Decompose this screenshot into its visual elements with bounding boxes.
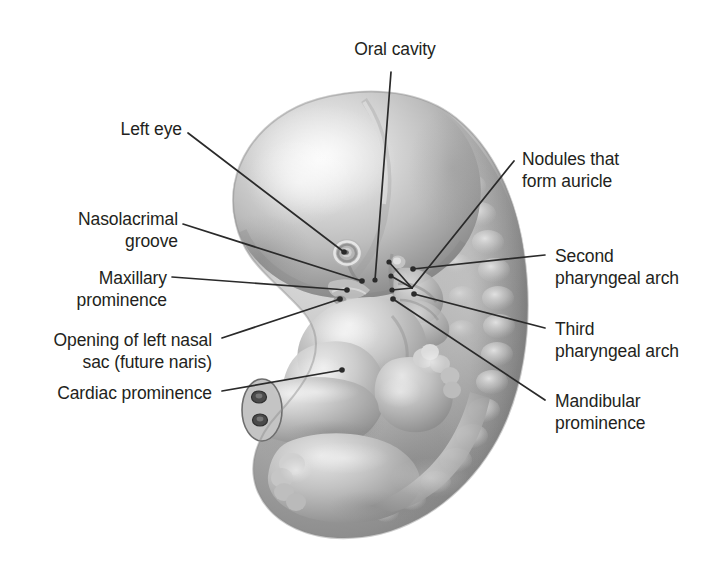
eye-optic-cup (332, 239, 362, 267)
leader-dot-nodule-2 (388, 273, 393, 278)
label-second-arch-line1: Second (555, 245, 725, 267)
label-nasolacrimal-groove-line2: groove (30, 230, 178, 252)
leader-dot-left-eye (341, 249, 347, 255)
leader-dot-third-arch (411, 291, 417, 297)
leader-dot-second-arch (410, 266, 416, 272)
leader-dot-nodule-3 (389, 287, 394, 292)
label-cardiac-prominence: Cardiac prominence (20, 382, 212, 404)
leader-dot-mandibular (390, 296, 396, 302)
leader-dot-nasolacrimal (359, 278, 365, 284)
label-second-arch-line2: pharyngeal arch (555, 267, 725, 289)
label-third-arch-line1: Third (555, 318, 725, 340)
leader-dot-cardiac (339, 367, 345, 373)
label-maxillary-prominence-line2: prominence (30, 289, 167, 311)
label-nasal-sac-line1: Opening of left nasal (20, 329, 212, 351)
label-maxillary-prominence-line1: Maxillary (30, 267, 167, 289)
label-mandibular-prominence-line2: prominence (555, 412, 725, 434)
label-oral-cavity: Oral cavity (330, 38, 460, 60)
leader-dot-maxillary (344, 287, 350, 293)
leader-dot-nasal-sac (337, 296, 343, 302)
label-nasolacrimal-groove-line1: Nasolacrimal (30, 208, 178, 230)
label-third-arch-line2: pharyngeal arch (555, 340, 725, 362)
label-nodules-auricle-line1: Nodules that (522, 148, 718, 170)
embryo-figure: Oral cavity Left eye Nasolacrimal groove… (0, 0, 726, 570)
embryo-body-group (210, 80, 540, 550)
label-nasal-sac-line2: sac (future naris) (20, 351, 212, 373)
leader-dot-nodule-1 (386, 259, 391, 264)
label-mandibular-prominence-line1: Mandibular (555, 390, 725, 412)
leader-dot-oral-cavity (372, 277, 377, 282)
label-left-eye: Left eye (30, 118, 182, 140)
label-nodules-auricle-line2: form auricle (522, 170, 718, 192)
